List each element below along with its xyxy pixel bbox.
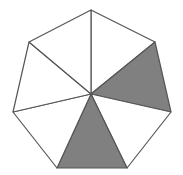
heptagon-sectors <box>13 10 171 168</box>
heptagon-diagram <box>0 0 183 175</box>
